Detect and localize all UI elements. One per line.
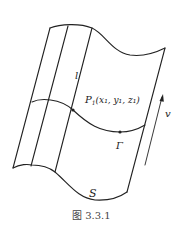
cylindrical-surface-diagram: l P1(x₁, y₁, z₁) Γ S v 图 3.3.1 [0,0,178,226]
label-surface-s: S [89,187,97,200]
label-point-p1: P1(x₁, y₁, z₁) [84,94,140,106]
direction-arrow-head [160,94,164,102]
point-gamma-dot [118,130,121,133]
surface-left-edge [13,28,50,168]
direction-arrow-shaft [145,97,162,165]
figure-caption: 图 3.3.1 [72,210,111,221]
surface-right-edge [127,48,165,192]
label-direction-v: v [165,108,171,119]
label-ruling-l: l [75,70,78,81]
point-p1-dot [71,108,74,111]
label-curve-gamma: Γ [115,140,124,151]
surface-bottom-edge [13,164,127,200]
